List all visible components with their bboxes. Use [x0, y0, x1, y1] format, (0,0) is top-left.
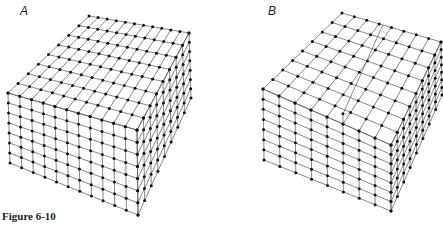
lattice-block-a: [7, 15, 193, 217]
panel-label-b: B: [268, 4, 276, 18]
figure-caption: Figure 6-10: [2, 210, 56, 222]
panel-label-a: A: [20, 4, 28, 18]
lattice-block-b: [262, 12, 443, 213]
lattice-diagram: [0, 0, 443, 227]
